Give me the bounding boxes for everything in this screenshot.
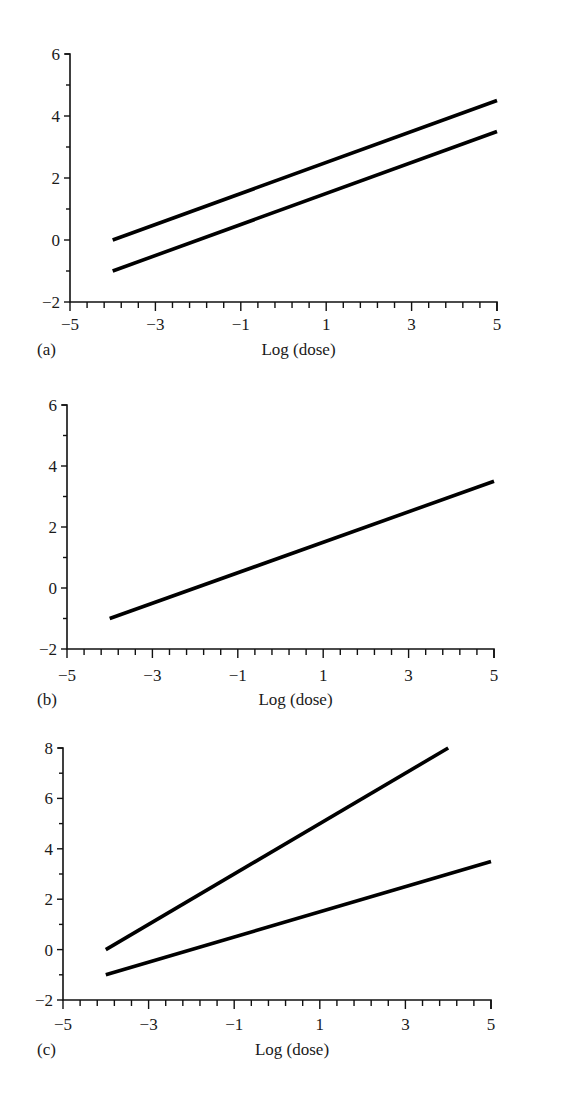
x-axis-title: Log (dose): [255, 1040, 329, 1059]
y-tick-label: 6: [49, 396, 58, 415]
axes: [65, 54, 497, 311]
y-tick-label: 6: [52, 45, 61, 64]
y-tick-label: 4: [45, 840, 54, 859]
y-tick-label: −2: [35, 991, 53, 1010]
data-line: [113, 101, 497, 241]
x-tick-label: −1: [232, 315, 250, 334]
y-tick-label: 0: [45, 941, 54, 960]
panel-label: (b): [37, 690, 57, 709]
y-tick-label: 0: [49, 579, 58, 598]
x-tick-label: 5: [493, 315, 502, 334]
x-tick-label: 5: [490, 666, 499, 685]
y-tick-label: 0: [52, 231, 61, 250]
x-axis-title: Log (dose): [258, 690, 332, 709]
data-line: [113, 132, 497, 272]
data-line: [106, 748, 448, 950]
panel-a: −20246−5−3−1135Log (dose)(a): [37, 45, 501, 359]
y-tick-label: 4: [52, 107, 61, 126]
x-tick-label: −1: [225, 1015, 243, 1034]
y-tick-label: 4: [49, 457, 58, 476]
x-tick-label: −5: [61, 315, 79, 334]
x-tick-label: −5: [58, 666, 76, 685]
y-tick-label: 2: [49, 518, 58, 537]
x-tick-label: 5: [487, 1015, 496, 1034]
data-line: [106, 861, 491, 974]
x-tick-label: −3: [146, 315, 164, 334]
axes: [62, 405, 494, 658]
y-tick-label: −2: [39, 640, 57, 659]
panel-label: (a): [37, 340, 56, 359]
y-tick-label: 2: [45, 890, 54, 909]
y-tick-label: 6: [45, 789, 54, 808]
panel-c: −202468−5−3−1135Log (dose)(c): [35, 739, 495, 1059]
figure: −20246−5−3−1135Log (dose)(a) −20246−5−3−…: [0, 0, 567, 1110]
x-tick-label: −1: [229, 666, 247, 685]
x-tick-label: 1: [316, 1015, 325, 1034]
x-tick-label: −3: [140, 1015, 158, 1034]
panel-b: −20246−5−3−1135Log (dose)(b): [37, 396, 498, 709]
x-tick-label: −5: [54, 1015, 72, 1034]
x-tick-label: 3: [404, 666, 413, 685]
data-line: [110, 481, 494, 618]
y-tick-label: −2: [42, 293, 60, 312]
panel-label: (c): [37, 1040, 56, 1059]
x-tick-label: 3: [407, 315, 416, 334]
y-tick-label: 2: [52, 169, 61, 188]
x-tick-label: 1: [322, 315, 331, 334]
y-tick-label: 8: [45, 739, 54, 758]
x-axis-title: Log (dose): [261, 340, 335, 359]
x-tick-label: 1: [319, 666, 328, 685]
x-tick-label: 3: [401, 1015, 410, 1034]
x-tick-label: −3: [143, 666, 161, 685]
